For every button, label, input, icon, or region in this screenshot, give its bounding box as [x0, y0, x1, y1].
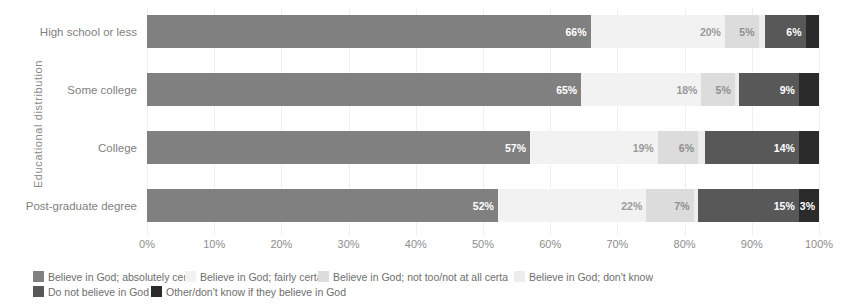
segment-value-label: 18%	[676, 84, 697, 96]
x-axis-tick-label: 30%	[338, 238, 360, 250]
legend-row: Do not believe in GodOther/don't know if…	[33, 284, 833, 299]
bar-segment: 5%	[701, 73, 734, 106]
legend-item[interactable]: Believe in God; fairly certai	[185, 271, 318, 283]
segment-value-label: 65%	[556, 84, 577, 96]
bar-segment: 7%	[646, 189, 693, 222]
legend-item[interactable]: Believe in God; not too/not at all certa	[318, 271, 514, 283]
stacked-bar: 52%22%7%15%3%	[147, 189, 819, 222]
segment-value-label: 6%	[786, 26, 801, 38]
x-axis-tick-label: 0%	[139, 238, 155, 250]
bar-row: Post-graduate degree52%22%7%15%3%	[147, 189, 819, 222]
bar-segment	[799, 73, 819, 106]
legend-item[interactable]: Other/don't know if they believe in God	[151, 286, 361, 298]
legend-swatch-icon	[185, 271, 196, 282]
bar-segment: 3%	[799, 189, 819, 222]
bar-segment: 6%	[658, 131, 698, 164]
bar-segment: 6%	[765, 15, 805, 48]
segment-value-label: 3%	[800, 200, 815, 212]
segment-value-label: 9%	[780, 84, 795, 96]
plot-area: High school or less66%20%5%6%Some colleg…	[147, 8, 819, 236]
segment-value-label: 7%	[674, 200, 689, 212]
bar-segment: 15%	[698, 189, 799, 222]
y-axis-title: Educational distribution	[32, 24, 44, 224]
legend-swatch-icon	[151, 286, 162, 297]
legend-label: Believe in God; don't know	[529, 271, 653, 283]
segment-value-label: 20%	[700, 26, 721, 38]
x-axis-tick-label: 20%	[270, 238, 292, 250]
legend-row: Believe in God; absolutely certaBelieve …	[33, 269, 833, 284]
x-axis-tick-label: 80%	[674, 238, 696, 250]
category-label: College	[98, 142, 137, 154]
bar-segment: 20%	[591, 15, 725, 48]
legend-swatch-icon	[514, 271, 525, 282]
segment-value-label: 52%	[473, 200, 494, 212]
bar-segment: 52%	[147, 189, 498, 222]
legend-swatch-icon	[33, 286, 44, 297]
bar-segment: 14%	[705, 131, 799, 164]
bar-segment	[759, 15, 766, 48]
legend-label: Believe in God; absolutely certa	[48, 271, 185, 283]
legend-swatch-icon	[33, 271, 44, 282]
x-axis-tick-label: 100%	[805, 238, 833, 250]
bar-row: Some college65%18%5%9%	[147, 73, 819, 106]
category-label: Some college	[67, 84, 137, 96]
bar-segment	[698, 131, 705, 164]
bar-segment	[799, 131, 819, 164]
x-axis: 0%10%20%30%40%50%60%70%80%90%100%	[147, 238, 819, 256]
stacked-bar-chart: Educational distribution High school or …	[0, 0, 845, 306]
stacked-bar: 57%19%6%14%	[147, 131, 819, 164]
bar-row: College57%19%6%14%	[147, 131, 819, 164]
legend-item[interactable]: Believe in God; absolutely certa	[33, 271, 185, 283]
stacked-bar: 65%18%5%9%	[147, 73, 819, 106]
bar-row: High school or less66%20%5%6%	[147, 15, 819, 48]
category-label: High school or less	[40, 26, 137, 38]
stacked-bar: 66%20%5%6%	[147, 15, 819, 48]
legend-label: Other/don't know if they believe in God	[166, 286, 346, 298]
bar-segment: 57%	[147, 131, 530, 164]
bar-segment: 65%	[147, 73, 581, 106]
segment-value-label: 57%	[505, 142, 526, 154]
legend-swatch-icon	[318, 271, 329, 282]
legend-item[interactable]: Believe in God; don't know	[514, 271, 654, 283]
segment-value-label: 19%	[633, 142, 654, 154]
legend-item[interactable]: Do not believe in God	[33, 286, 151, 298]
x-axis-tick-label: 40%	[405, 238, 427, 250]
x-axis-tick-label: 70%	[606, 238, 628, 250]
gridline	[819, 8, 820, 236]
legend-label: Believe in God; fairly certai	[200, 271, 318, 283]
category-label: Post-graduate degree	[26, 200, 137, 212]
segment-value-label: 6%	[679, 142, 694, 154]
x-axis-tick-label: 60%	[539, 238, 561, 250]
segment-value-label: 15%	[774, 200, 795, 212]
segment-value-label: 22%	[621, 200, 642, 212]
x-axis-tick-label: 10%	[203, 238, 225, 250]
bar-segment: 9%	[739, 73, 799, 106]
segment-value-label: 14%	[774, 142, 795, 154]
bar-segment: 18%	[581, 73, 701, 106]
segment-value-label: 5%	[739, 26, 754, 38]
x-axis-tick-label: 50%	[472, 238, 494, 250]
x-axis-tick-label: 90%	[741, 238, 763, 250]
legend-label: Believe in God; not too/not at all certa	[333, 271, 508, 283]
bar-segment: 19%	[530, 131, 658, 164]
chart-legend: Believe in God; absolutely certaBelieve …	[33, 269, 833, 299]
bar-segment: 5%	[725, 15, 759, 48]
bar-segment: 22%	[498, 189, 646, 222]
bar-segment	[806, 15, 819, 48]
segment-value-label: 66%	[566, 26, 587, 38]
segment-value-label: 5%	[716, 84, 731, 96]
bar-segment: 66%	[147, 15, 591, 48]
legend-label: Do not believe in God	[48, 286, 149, 298]
